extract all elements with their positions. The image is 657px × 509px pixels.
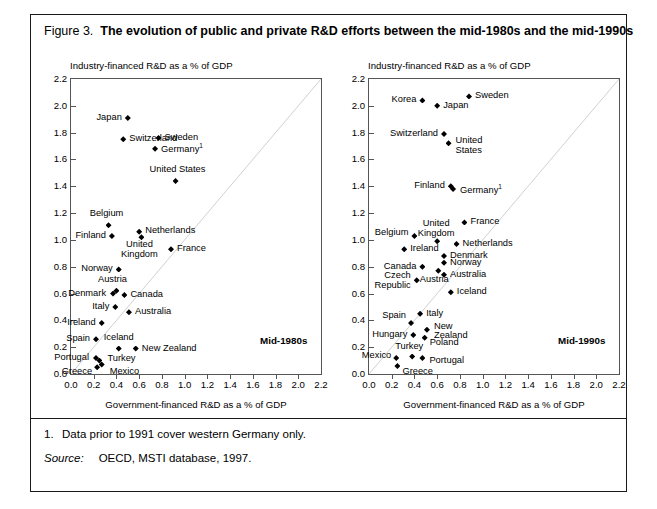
x-tick-mark xyxy=(392,374,393,379)
data-label-australia: Australia xyxy=(135,308,171,317)
x-tick-label: 0.6 xyxy=(133,380,146,390)
x-tick-label: 0.6 xyxy=(431,380,444,390)
x-tick-label: 0.4 xyxy=(110,380,123,390)
data-label-czech-republic: Czech Republic xyxy=(359,271,411,290)
x-tick-label: 1.8 xyxy=(567,380,580,390)
y-tick-label: 1.2 xyxy=(54,208,67,218)
x-tick-label: 0.2 xyxy=(385,380,398,390)
x-tick-label: 2.2 xyxy=(314,380,327,390)
data-label-iceland: Iceland xyxy=(457,287,487,296)
data-label-denmark: Denmark xyxy=(68,289,106,298)
source-label: Source: xyxy=(44,452,84,464)
data-label-iceland: Iceland xyxy=(104,333,134,342)
data-label-australia: Australia xyxy=(450,270,486,279)
x-tick-label: 1.6 xyxy=(246,380,259,390)
x-tick-mark xyxy=(207,374,208,379)
footnote-ref: 1 xyxy=(199,142,203,149)
data-label-united-states: United States xyxy=(150,165,206,174)
y-tick-label: 2.0 xyxy=(54,101,67,111)
x-tick-mark xyxy=(185,374,186,379)
data-label-finland: Finland xyxy=(75,231,106,240)
y-tick-label: 1.0 xyxy=(352,235,365,245)
y-tick-mark xyxy=(71,186,76,187)
y-tick-mark xyxy=(369,294,374,295)
data-label-france: France xyxy=(470,218,499,227)
data-label-united-kingdom: United Kingdom xyxy=(113,240,165,259)
data-label-japan: Japan xyxy=(443,101,468,110)
x-tick-label: 1.4 xyxy=(223,380,236,390)
x-tick-label: 1.4 xyxy=(521,380,534,390)
data-label-greece: Greece xyxy=(402,367,433,376)
x-tick-label: 0.8 xyxy=(155,380,168,390)
x-tick-mark xyxy=(139,374,140,379)
data-label-belgium: Belgium xyxy=(375,228,409,237)
x-tick-mark xyxy=(298,374,299,379)
y-tick-label: 1.6 xyxy=(352,155,365,165)
y-axis-label-right: Industry-financed R&D as a % of GDP xyxy=(368,60,531,71)
x-tick-label: 1.0 xyxy=(476,380,489,390)
data-label-spain: Spain xyxy=(66,334,90,343)
footnote-divider-bottom xyxy=(31,491,626,492)
source-line: Source:OECD, MSTI database, 1997. xyxy=(44,452,251,464)
data-label-norway: Norway xyxy=(450,258,482,267)
data-label-austria: Austria xyxy=(98,275,127,284)
y-tick-mark xyxy=(369,133,374,134)
era-badge-mid-1980s: Mid-1980s xyxy=(260,335,307,346)
y-tick-mark xyxy=(71,213,76,214)
data-label-mexico: Mexico xyxy=(110,367,139,376)
x-tick-label: 0.8 xyxy=(453,380,466,390)
y-tick-label: 1.6 xyxy=(54,155,67,165)
x-tick-label: 1.8 xyxy=(269,380,282,390)
y-tick-label: 1.8 xyxy=(352,128,365,138)
x-tick-label: 1.2 xyxy=(201,380,214,390)
data-label-turkey: Turkey xyxy=(395,342,423,351)
data-label-italy: Italy xyxy=(426,309,443,318)
x-tick-label: 2.2 xyxy=(612,380,625,390)
footnote-ref: 1 xyxy=(498,183,502,190)
x-tick-mark xyxy=(596,374,597,379)
figure-caption: Figure 3.The evolution of public and pri… xyxy=(44,24,633,38)
data-label-sweden: Sweden xyxy=(165,133,199,142)
plot-area-mid-1980s: 0.00.20.40.60.81.01.21.41.61.82.02.20.00… xyxy=(70,78,322,375)
x-tick-mark xyxy=(94,374,95,379)
y-axis-label-left: Industry-financed R&D as a % of GDP xyxy=(70,60,233,71)
data-label-hungary: Hungary xyxy=(372,330,407,339)
data-label-japan: Japan xyxy=(96,113,121,122)
x-tick-label: 2.0 xyxy=(590,380,603,390)
y-tick-mark xyxy=(369,267,374,268)
data-label-ireland: Ireland xyxy=(410,245,438,254)
figure-number: Figure 3. xyxy=(44,24,93,38)
data-label-germany: Germany1 xyxy=(161,143,203,155)
y-tick-mark xyxy=(369,106,374,107)
data-label-mexico: Mexico xyxy=(362,351,391,360)
data-label-portugal: Portugal xyxy=(54,353,89,362)
y-tick-mark xyxy=(71,106,76,107)
y-tick-mark xyxy=(71,133,76,134)
data-label-france: France xyxy=(177,245,206,254)
data-label-canada: Canada xyxy=(130,290,163,299)
x-tick-label: 0.0 xyxy=(362,380,375,390)
x-tick-mark xyxy=(528,374,529,379)
y-tick-label: 2.0 xyxy=(352,101,365,111)
y-tick-label: 2.2 xyxy=(352,74,365,84)
data-label-united-states: United States xyxy=(456,136,508,155)
x-tick-mark xyxy=(483,374,484,379)
x-tick-mark xyxy=(162,374,163,379)
y-tick-label: 1.0 xyxy=(54,235,67,245)
x-axis-label-right: Government-financed R&D as a % of GDP xyxy=(368,399,620,410)
source-text: OECD, MSTI database, 1997. xyxy=(99,452,252,464)
data-label-turkey: Turkey xyxy=(107,354,135,363)
footnote-divider-top xyxy=(31,418,626,419)
x-tick-label: 0.4 xyxy=(408,380,421,390)
x-tick-mark xyxy=(437,374,438,379)
x-tick-mark xyxy=(230,374,231,379)
footnote-1-text: Data prior to 1991 cover western Germany… xyxy=(62,428,306,440)
chart-panel-mid-1990s: Industry-financed R&D as a % of GDP 0.00… xyxy=(330,60,628,405)
y-tick-label: 1.4 xyxy=(54,181,67,191)
x-tick-mark xyxy=(253,374,254,379)
x-tick-mark xyxy=(505,374,506,379)
y-tick-mark xyxy=(369,159,374,160)
figure-page: Figure 3.The evolution of public and pri… xyxy=(0,0,657,509)
y-tick-label: 1.2 xyxy=(352,208,365,218)
era-badge-mid-1990s: Mid-1990s xyxy=(558,335,605,346)
